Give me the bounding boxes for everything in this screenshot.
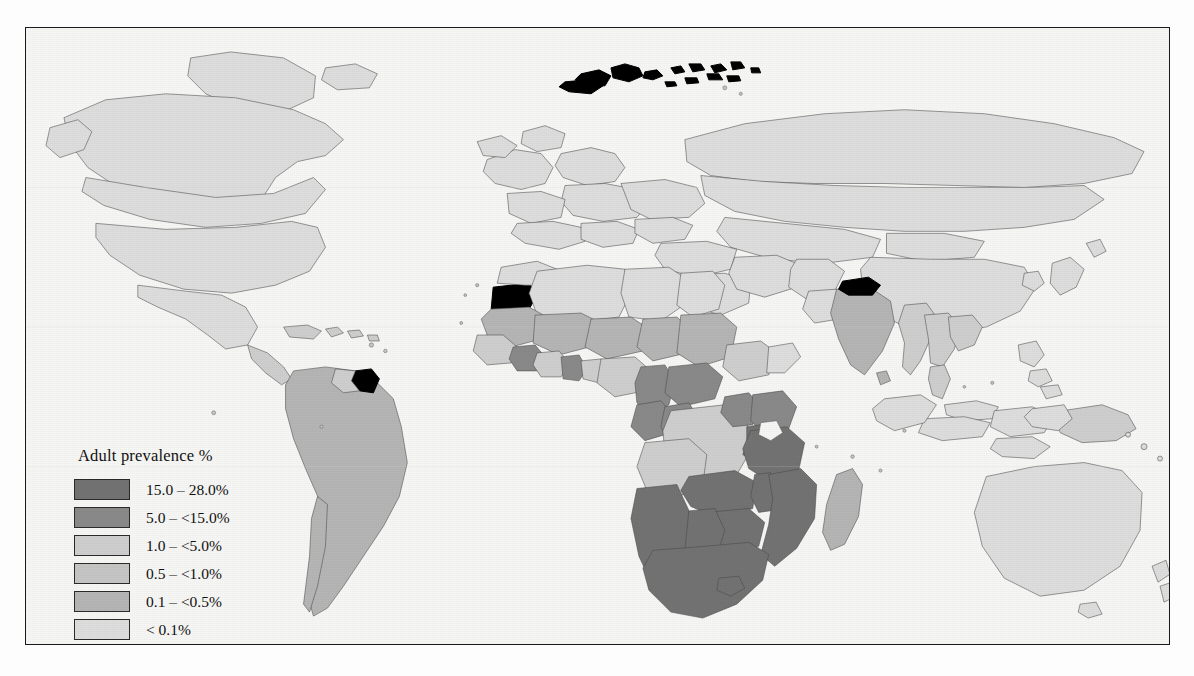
legend-label-15-28: 15.0 – 28.0% bbox=[146, 482, 229, 498]
legend-swatch-01-05 bbox=[74, 591, 130, 612]
legend-swatch-15-28 bbox=[74, 479, 130, 500]
map-frame: .ld { stroke:#4a4a4a; stroke-width:0.55;… bbox=[25, 27, 1170, 645]
legend-label-01-05: 0.1 – <0.5% bbox=[146, 594, 222, 610]
legend-swatch-1-5 bbox=[74, 535, 130, 556]
legend-item-01-05: 0.1 – <0.5% bbox=[74, 590, 324, 613]
legend-item-1-5: 1.0 – <5.0% bbox=[74, 534, 324, 557]
legend-swatch-under-01 bbox=[74, 619, 130, 640]
legend-label-under-01: < 0.1% bbox=[146, 622, 191, 638]
legend-item-5-15: 5.0 – <15.0% bbox=[74, 506, 324, 529]
legend-title: Adult prevalence % bbox=[78, 446, 324, 466]
legend-item-under-01: < 0.1% bbox=[74, 618, 324, 641]
legend-label-05-1: 0.5 – <1.0% bbox=[146, 566, 222, 582]
figure-canvas: .ld { stroke:#4a4a4a; stroke-width:0.55;… bbox=[0, 0, 1194, 676]
map-legend: Adult prevalence % 15.0 – 28.0% 5.0 – <1… bbox=[74, 446, 324, 645]
legend-label-1-5: 1.0 – <5.0% bbox=[146, 538, 222, 554]
legend-item-05-1: 0.5 – <1.0% bbox=[74, 562, 324, 585]
legend-label-5-15: 5.0 – <15.0% bbox=[146, 510, 230, 526]
legend-swatch-05-1 bbox=[74, 563, 130, 584]
legend-item-15-28: 15.0 – 28.0% bbox=[74, 478, 324, 501]
legend-swatch-5-15 bbox=[74, 507, 130, 528]
